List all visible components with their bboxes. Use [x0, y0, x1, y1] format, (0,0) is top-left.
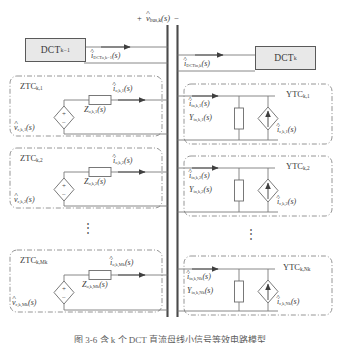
- ytc-source-label-1: ic,k,1(s): [277, 126, 296, 134]
- dct-right-sub: k: [294, 55, 297, 61]
- bus-voltage-label: + vbus,k(s) −: [137, 14, 179, 23]
- ytc-source-label-n: ic,k,Nk(s): [277, 298, 299, 306]
- dct-left-name: DCT: [41, 45, 61, 55]
- source-minus-1: −: [62, 119, 66, 127]
- ytc-title-n: YTCk,Nk: [283, 263, 310, 272]
- dct-left-sub: k−1: [60, 47, 70, 53]
- ellipsis-left: ⋮: [82, 222, 94, 234]
- ytc-title-1: YTCk,1: [286, 90, 310, 99]
- ytc-admittance-label-n: Yin,k,Nk(s): [187, 287, 213, 295]
- source-plus-m: +: [62, 285, 66, 293]
- dct-block-right[interactable]: DCTk: [255, 46, 316, 70]
- ztc-current-label-m: io,k,Mk(s): [110, 259, 133, 267]
- ztc-title-2: ZTCk,2: [20, 154, 43, 163]
- dct-block-left[interactable]: DCTk−1: [25, 38, 86, 62]
- source-minus-2: −: [62, 191, 66, 199]
- source-plus-2: +: [62, 182, 66, 190]
- ztc-impedance-label-2: Zo,k,2(s): [84, 178, 106, 186]
- ytc-current-label-n: iin,k,Nk(s): [187, 273, 211, 281]
- ztc-impedance-label-m: Zo,k,Mk(s): [82, 281, 108, 289]
- ztc-source-label-1: vc,k,1(s): [14, 124, 35, 132]
- ztc-title-1: ZTCk,1: [20, 82, 43, 91]
- ytc-current-label-2: iin,k,2(s): [189, 172, 210, 180]
- dct-right-current-label: iDCTin,k(s): [184, 60, 210, 68]
- ztc-impedance-label-1: Zo,k,1(s): [84, 106, 106, 114]
- ztc-current-label-2: io,k,2(s): [113, 157, 132, 165]
- dct-left-current-label: iDCTo,k−1(s): [91, 52, 120, 60]
- ztc-title-m: ZTCk,Mk: [20, 256, 47, 265]
- ztc-current-label-1: io,k,1(s): [113, 85, 132, 93]
- ytc-current-label-1: iin,k,1(s): [189, 100, 210, 108]
- dct-right-name: DCT: [274, 53, 294, 63]
- ytc-admittance-label-1: Yin,k,1(s): [189, 114, 212, 122]
- ztc-source-label-2: vc,k,2(s): [14, 196, 35, 204]
- ellipsis-right: ⋮: [245, 228, 257, 240]
- ztc-source-label-m: vc,k,Mk(s): [12, 299, 36, 307]
- source-plus-1: +: [62, 110, 66, 118]
- figure-caption: 图 3-6 含 k 个 DCT 直流母线小信号等效电路模型: [0, 333, 340, 343]
- ytc-source-label-2: ic,k,2(s): [277, 198, 296, 206]
- ytc-admittance-label-2: Yin,k,2(s): [189, 186, 212, 194]
- source-minus-m: −: [62, 294, 66, 302]
- ytc-title-2: YTCk,2: [286, 162, 310, 171]
- figure-canvas: + − + − + − + vbus,k(s) − DCTk−1 DCTk iD…: [0, 0, 340, 343]
